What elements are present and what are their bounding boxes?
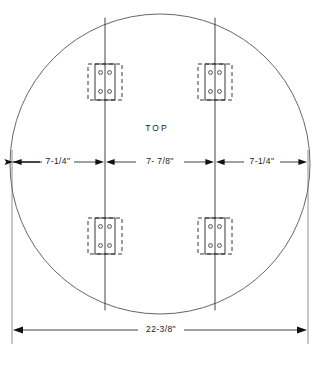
hinge-screw-hole: [209, 90, 213, 94]
hinge-screw-hole: [108, 90, 112, 94]
arrowhead-right-outer: [298, 159, 307, 165]
hinge-screw-hole: [108, 225, 112, 229]
hinge-screw-hole: [99, 90, 103, 94]
drawing-canvas: TOP 7-1/4" 7- 7/8" 7: [0, 0, 319, 366]
dimension-center-label: 7- 7/8": [146, 156, 174, 166]
arrowhead-center-left: [106, 159, 115, 165]
hinge-screw-hole: [108, 71, 112, 75]
hinge-screw-hole: [209, 225, 213, 229]
hinge-screw-hole: [99, 244, 103, 248]
view-label-top: TOP: [145, 123, 169, 133]
hinge-screw-hole: [218, 244, 222, 248]
dimension-overall: 22-3/8": [13, 324, 307, 334]
dimension-overall-label: 22-3/8": [146, 324, 176, 334]
dimension-right: 7-1/4": [216, 156, 307, 166]
hinge-screw-hole: [218, 90, 222, 94]
hinge-screw-hole: [99, 225, 103, 229]
hinge-screw-hole: [108, 244, 112, 248]
arrowhead-overall-left: [13, 327, 23, 334]
hinge-screw-hole: [209, 71, 213, 75]
dimension-center: 7- 7/8": [106, 156, 214, 166]
hinge-screw-hole: [218, 225, 222, 229]
arrowhead-left-outer: [13, 159, 22, 165]
dimension-left-label: 7-1/4": [46, 156, 71, 166]
arrowhead-overall-right: [297, 327, 307, 334]
hinge-screw-hole: [99, 71, 103, 75]
hinge-screw-hole: [209, 244, 213, 248]
arrowhead-right-inner: [216, 159, 225, 165]
arrowhead-left-inner: [95, 159, 104, 165]
dimension-right-label: 7-1/4": [250, 156, 275, 166]
technical-drawing-root: TOP 7-1/4" 7- 7/8" 7: [0, 0, 319, 366]
dimension-left: 7-1/4": [13, 156, 104, 166]
hinge-screw-hole: [218, 71, 222, 75]
arrowhead-center-right: [205, 159, 214, 165]
